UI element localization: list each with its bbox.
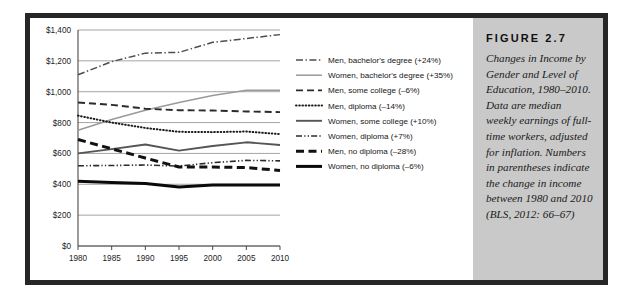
x-axis-tick-label: 2010 xyxy=(271,254,290,263)
y-axis-tick-label: $1,000 xyxy=(46,88,71,97)
figure-caption-text: Changes in Income by Gender and Level of… xyxy=(486,51,593,223)
legend-label: Women, bachelor's degree (+35%) xyxy=(328,71,453,80)
figure-screenshot: $0$200$400$600$800$1,000$1,200$1,4001980… xyxy=(0,0,633,298)
series-line xyxy=(78,103,280,113)
x-axis-tick-label: 1990 xyxy=(136,254,155,263)
x-axis-tick-label: 1985 xyxy=(103,254,122,263)
y-axis-tick-label: $1,400 xyxy=(46,26,71,35)
series-line xyxy=(78,35,280,75)
legend-label: Men, some college (–6%) xyxy=(328,86,420,95)
x-axis-tick-label: 2000 xyxy=(204,254,223,263)
y-axis-tick-label: $0 xyxy=(62,242,72,251)
y-axis-tick-label: $200 xyxy=(53,211,72,220)
x-axis-tick-label: 1980 xyxy=(69,254,88,263)
caption-pane: FIGURE 2.7 Changes in Income by Gender a… xyxy=(473,18,603,280)
legend-item[interactable]: Women, some college (+10%) xyxy=(296,117,437,126)
series-line xyxy=(78,116,280,135)
legend-item[interactable]: Men, diploma (–14%) xyxy=(296,102,405,111)
series-line xyxy=(78,140,280,171)
legend-label: Men, diploma (–14%) xyxy=(328,102,405,111)
figure-frame: $0$200$400$600$800$1,000$1,200$1,4001980… xyxy=(25,13,608,285)
legend-label: Women, no diploma (–6%) xyxy=(328,162,424,171)
figure-number-label: FIGURE 2.7 xyxy=(486,32,593,44)
y-axis-tick-label: $400 xyxy=(53,180,72,189)
legend-label: Men, bachelor's degree (+24%) xyxy=(328,56,441,65)
y-axis-tick-label: $600 xyxy=(53,149,72,158)
legend-label: Women, some college (+10%) xyxy=(328,117,437,126)
y-axis-tick-label: $1,200 xyxy=(46,57,71,66)
income-line-chart: $0$200$400$600$800$1,000$1,200$1,4001980… xyxy=(30,18,473,280)
legend-item[interactable]: Women, bachelor's degree (+35%) xyxy=(296,71,453,80)
legend-item[interactable]: Women, no diploma (–6%) xyxy=(296,162,424,171)
series-line xyxy=(78,160,280,166)
x-axis-tick-label: 2005 xyxy=(237,254,256,263)
legend-label: Women, diploma (+7%) xyxy=(328,132,413,141)
x-axis-tick-label: 1995 xyxy=(170,254,189,263)
legend-item[interactable]: Men, some college (–6%) xyxy=(296,86,420,95)
legend-item[interactable]: Men, bachelor's degree (+24%) xyxy=(296,56,441,65)
legend-item[interactable]: Men, no diploma (–28%) xyxy=(296,147,416,156)
legend-item[interactable]: Women, diploma (+7%) xyxy=(296,132,413,141)
legend-label: Men, no diploma (–28%) xyxy=(328,147,416,156)
chart-pane: $0$200$400$600$800$1,000$1,200$1,4001980… xyxy=(30,18,473,280)
y-axis-tick-label: $800 xyxy=(53,119,72,128)
